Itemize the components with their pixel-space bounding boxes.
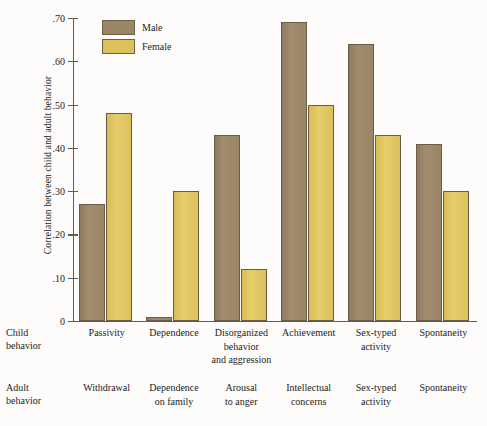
bar-female: [308, 105, 334, 321]
bar-female: [241, 269, 267, 321]
y-axis-title: Correlation between child and adult beha…: [43, 40, 53, 290]
bar-female: [375, 135, 401, 321]
bar-male: [79, 204, 105, 321]
adult-category-5: Spontaneity: [400, 381, 487, 395]
x-axis-line: [73, 321, 477, 322]
bar-male: [214, 135, 240, 321]
child-category-2-line: and aggression: [198, 353, 285, 367]
child-category-2-line: behavior: [198, 340, 285, 354]
child-category-5: Spontaneity: [400, 326, 487, 340]
chart-figure: Correlation between child and adult beha…: [0, 0, 487, 426]
adult-behavior-categories: WithdrawalDependenceon familyArousalto a…: [73, 381, 477, 421]
child-category-5-line: Spontaneity: [400, 326, 487, 340]
bar-male: [281, 22, 307, 321]
adult-label-line2: behavior: [6, 394, 72, 407]
adult-category-4-line: activity: [332, 395, 419, 409]
bar-group: [342, 18, 409, 321]
bar-groups: [73, 18, 477, 321]
bar-group: [410, 18, 477, 321]
y-tick-label-4: .30: [53, 186, 66, 197]
y-tick-7: [68, 321, 78, 322]
bar-female: [173, 191, 199, 321]
bar-group: [140, 18, 207, 321]
child-behavior-categories: PassivityDependenceDisorganizedbehaviora…: [73, 326, 477, 374]
bar-female: [443, 191, 469, 321]
adult-category-5-line: Spontaneity: [400, 381, 487, 395]
bar-group: [73, 18, 140, 321]
bar-group: [275, 18, 342, 321]
bar-male: [146, 317, 172, 321]
child-label-line2: behavior: [6, 339, 72, 352]
bar-group: [208, 18, 275, 321]
bar-female: [106, 113, 132, 321]
y-tick-label-7: 0: [60, 316, 65, 327]
child-category-4-line: activity: [332, 340, 419, 354]
bar-male: [416, 144, 442, 321]
y-tick-label-0: .70: [53, 13, 66, 24]
y-tick-label-3: .40: [53, 142, 66, 153]
y-tick-label-1: .60: [53, 56, 66, 67]
y-tick-label-6: .10: [53, 272, 66, 283]
bar-male: [348, 44, 374, 321]
y-tick-label-5: .20: [53, 229, 66, 240]
y-tick-label-2: .50: [53, 99, 66, 110]
plot-area: .70.60.50.40.30.20.100 Male Female: [73, 18, 477, 321]
